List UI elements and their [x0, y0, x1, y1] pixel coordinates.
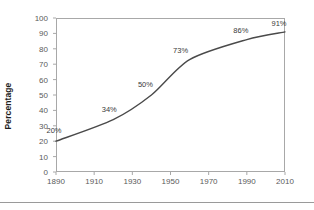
x-tick-label: 1930: [123, 177, 141, 186]
x-tick-label: 1910: [85, 177, 103, 186]
data-point-label: 86%: [233, 25, 248, 34]
x-tick-label: 1950: [162, 177, 180, 186]
bottom-divider: [0, 202, 314, 203]
data-point-label: 20%: [46, 126, 61, 135]
x-tick-label: 1990: [238, 177, 256, 186]
data-point-label: 73%: [173, 45, 188, 54]
data-point-label: 91%: [271, 18, 286, 27]
data-point-label: 34%: [102, 104, 117, 113]
data-point-label: 50%: [138, 80, 153, 89]
x-tick-label: 2010: [276, 177, 294, 186]
chart-page: Percentage 0102030405060708090100 20%34%…: [0, 0, 314, 210]
x-axis-tick-labels: 1890191019301950197019902010: [0, 177, 314, 191]
x-tick-label: 1890: [47, 177, 65, 186]
x-tick-label: 1970: [200, 177, 218, 186]
